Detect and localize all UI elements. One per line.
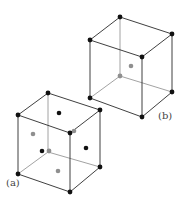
cube-edge	[90, 98, 142, 117]
cube-edge	[70, 167, 100, 192]
hidden-edge	[120, 76, 172, 92]
corner-atom	[118, 15, 123, 20]
cube-edge	[90, 40, 142, 57]
corner-atom	[88, 38, 93, 43]
cube-edge	[120, 17, 172, 34]
corner-atom	[170, 90, 175, 95]
face-atom	[31, 132, 36, 137]
face-atom	[56, 169, 61, 174]
corner-atom	[140, 115, 145, 120]
corner-atom	[118, 74, 123, 79]
unit-cell-a: (a)	[6, 91, 102, 195]
corner-atom	[68, 131, 73, 136]
corner-atom	[46, 91, 51, 96]
cube-label-a: (a)	[6, 177, 20, 188]
hidden-edge	[48, 152, 100, 167]
corner-atom	[170, 32, 175, 37]
cube-edge	[142, 34, 172, 57]
unit-cell-diagram: (a)(b)	[0, 0, 185, 205]
face-atom	[84, 146, 89, 151]
face-atom	[57, 111, 62, 116]
cube-label-b: (b)	[158, 110, 172, 121]
corner-atom	[16, 172, 21, 177]
corner-atom	[98, 108, 103, 113]
corner-atom	[47, 149, 52, 154]
corner-atom	[68, 190, 73, 195]
corner-atom	[88, 96, 93, 101]
unit-cell-b: (b)	[88, 15, 175, 121]
face-atom	[72, 129, 77, 134]
cube-edge	[18, 115, 70, 133]
cube-edge	[18, 93, 48, 115]
caption-cut-off	[0, 199, 185, 205]
corner-atom	[98, 165, 103, 170]
hidden-edge	[90, 76, 120, 98]
hidden-edge	[18, 152, 48, 174]
corner-atom	[16, 113, 21, 118]
cube-edge	[18, 174, 70, 192]
cube-edge	[90, 17, 120, 40]
cube-edge	[48, 93, 100, 110]
corner-atom	[140, 55, 145, 60]
face-atom	[40, 149, 45, 154]
face-atom	[129, 64, 134, 69]
